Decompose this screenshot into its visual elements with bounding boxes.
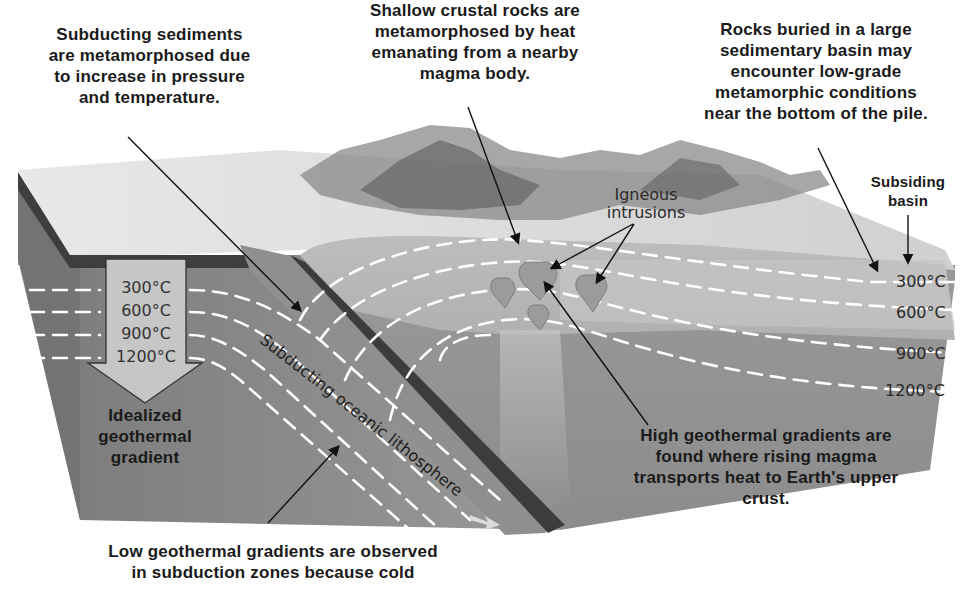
callout-low-gradient: Low geothermal gradients are observed in… <box>78 541 468 583</box>
callout-subducting-sediments: Subducting sediments are metamorphosed d… <box>22 24 277 108</box>
callout-line: emanating from a nearby <box>325 42 625 63</box>
idealized-gradient-temps: 300°C 600°C 900°C 1200°C <box>109 276 183 368</box>
callout-line: Low geothermal gradients are observed <box>78 541 468 562</box>
label-line: basin <box>860 191 956 210</box>
callout-line: to increase in pressure <box>22 66 277 87</box>
label-idealized-gradient: Idealized geothermal gradient <box>80 405 210 468</box>
label-line: intrusions <box>596 204 696 222</box>
callout-line: magma body. <box>325 63 625 84</box>
isotherm-label-600: 600°C <box>896 303 946 322</box>
geothermal-diagram: Subducting sediments are metamorphosed d… <box>0 0 961 589</box>
isotherm-label-900: 900°C <box>896 344 946 363</box>
callout-line: sedimentary basin may <box>676 40 956 61</box>
label-line: Igneous <box>596 186 696 204</box>
temp-900: 900°C <box>109 322 183 345</box>
temp-300: 300°C <box>109 276 183 299</box>
callout-line: near the bottom of the pile. <box>676 103 956 124</box>
callout-line: and temperature. <box>22 87 277 108</box>
callout-line: in subduction zones because cold <box>78 562 468 583</box>
callout-line: crust. <box>596 488 936 509</box>
callout-sedimentary-basin: Rocks buried in a large sedimentary basi… <box>676 19 956 124</box>
callout-line: found where rising magma <box>596 446 936 467</box>
callout-line: encounter low-grade <box>676 61 956 82</box>
callout-high-gradient: High geothermal gradients are found wher… <box>596 425 936 509</box>
callout-line: metamorphosed by heat <box>325 21 625 42</box>
temp-600: 600°C <box>109 299 183 322</box>
temp-1200: 1200°C <box>109 345 183 368</box>
callout-line: Shallow crustal rocks are <box>325 0 625 21</box>
label-line: Subsiding <box>860 172 956 191</box>
callout-shallow-crustal: Shallow crustal rocks are metamorphosed … <box>325 0 625 84</box>
label-line: gradient <box>80 447 210 468</box>
callout-line: metamorphic conditions <box>676 82 956 103</box>
callout-line: High geothermal gradients are <box>596 425 936 446</box>
callout-line: are metamorphosed due <box>22 45 277 66</box>
label-line: Idealized <box>80 405 210 426</box>
label-igneous-intrusions: Igneous intrusions <box>596 186 696 222</box>
isotherm-label-300: 300°C <box>896 272 946 291</box>
label-line: geothermal <box>80 426 210 447</box>
isotherm-label-1200: 1200°C <box>885 381 945 400</box>
label-subsiding-basin: Subsiding basin <box>860 172 956 210</box>
callout-line: Subducting sediments <box>22 24 277 45</box>
callout-line: transports heat to Earth's upper <box>596 467 936 488</box>
callout-line: Rocks buried in a large <box>676 19 956 40</box>
